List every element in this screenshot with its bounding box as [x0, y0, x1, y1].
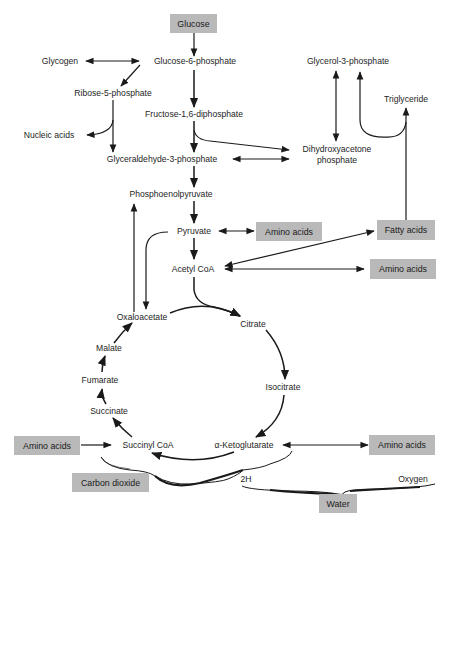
oxygen-label: Oxygen — [398, 475, 428, 484]
alpha-ketoglutarate-label: α-Ketoglutarate — [215, 441, 274, 450]
triglyceride-label: Triglyceride — [384, 95, 428, 104]
two-h-label: 2H — [241, 475, 252, 484]
fumarate-label: Fumarate — [82, 376, 119, 385]
fructose-1-6-diphosphate-label: Fructose-1,6-diphosphate — [145, 110, 243, 119]
ribose-5-phosphate-label: Ribose-5-phosphate — [74, 89, 151, 98]
amino-acids-box-pyruvate: Amino acids — [256, 222, 322, 241]
carbon-dioxide-box: Carbon dioxide — [72, 473, 149, 492]
succinyl-coa-label: Succinyl CoA — [122, 441, 173, 450]
citrate-label: Citrate — [240, 320, 265, 329]
phosphoenolpyruvate-label: Phosphoenolpyruvate — [129, 190, 212, 199]
pyruvate-label: Pyruvate — [177, 227, 211, 236]
amino-acids-box-succinyl: Amino acids — [14, 436, 80, 455]
glyceraldehyde-3-phosphate-label: Glyceraldehyde-3-phosphate — [107, 155, 217, 164]
glucose-box: Glucose — [170, 14, 217, 33]
fatty-acids-box: Fatty acids — [377, 220, 435, 240]
glucose-6-phosphate-label: Glucose-6-phosphate — [154, 57, 236, 66]
metabolic-pathway-diagram: Glucose Amino acids Fatty acids Amino ac… — [0, 0, 453, 656]
nucleic-acids-label: Nucleic acids — [24, 131, 75, 140]
succinate-label: Succinate — [90, 407, 128, 416]
dihydroxyacetone-phosphate-label: phosphate — [317, 156, 357, 165]
malate-label: Malate — [96, 344, 122, 353]
glycerol-3-phosphate-label: Glycerol-3-phosphate — [307, 57, 389, 66]
amino-acids-box-ketoglutarate: Amino acids — [369, 435, 435, 455]
isocitrate-label: Isocitrate — [266, 383, 301, 392]
water-box: Water — [319, 494, 357, 513]
acetyl-coa-label: Acetyl CoA — [172, 265, 215, 274]
dihydroxyacetone-label: Dihydroxyacetone — [303, 145, 372, 154]
glycogen-label: Glycogen — [42, 57, 78, 66]
oxaloacetate-label: Oxaloacetate — [117, 313, 168, 322]
amino-acids-box-acetyl: Amino acids — [370, 259, 436, 279]
